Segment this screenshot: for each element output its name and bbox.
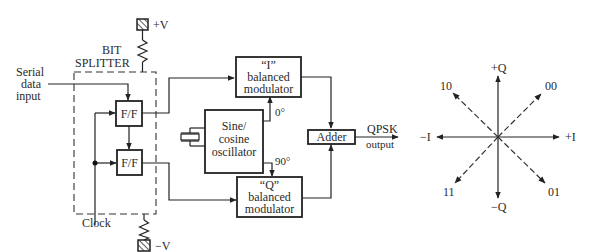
symbol-11-vector — [455, 137, 498, 183]
svg-text:F/F: F/F — [121, 107, 138, 121]
plus-q-label: +Q — [491, 61, 507, 75]
minus-q-label: −Q — [491, 200, 507, 214]
positive-supply: +V — [137, 18, 169, 72]
qpsk-diagram: +V BIT SPLITTER F/F F/F Serial data inpu… — [0, 0, 593, 252]
bit-splitter-label-1: BIT — [102, 43, 122, 57]
minus-i-label: −I — [420, 130, 431, 144]
symbol-10-label: 10 — [440, 79, 452, 93]
resistor-icon — [138, 40, 147, 62]
svg-text:modulator: modulator — [245, 202, 294, 216]
symbol-10-vector — [453, 93, 498, 137]
negative-supply: −V — [138, 214, 171, 252]
svg-text:oscillator: oscillator — [212, 145, 257, 159]
junction-dot — [93, 161, 98, 166]
sine-cosine-oscillator: Sine/ cosine oscillator — [181, 110, 263, 173]
crystal-icon — [181, 128, 205, 146]
svg-text:F/F: F/F — [121, 156, 138, 170]
supply-terminal-icon — [137, 19, 148, 30]
svg-text:output: output — [366, 138, 394, 150]
resistor-icon — [140, 220, 149, 240]
phasor-diagram: +Q −Q +I −I 00 10 11 01 — [420, 61, 576, 214]
symbol-00-label: 00 — [545, 79, 557, 93]
supply-terminal-icon — [138, 240, 150, 251]
svg-text:modulator: modulator — [244, 82, 293, 96]
phase-0-label: 0° — [275, 106, 285, 118]
clock-label: Clock — [82, 216, 111, 230]
i-balanced-modulator: “I” balanced modulator — [236, 57, 301, 97]
svg-text:input: input — [16, 89, 41, 103]
bit-splitter-label-2: SPLITTER — [75, 56, 130, 70]
symbol-11-label: 11 — [443, 185, 455, 199]
adder: Adder — [308, 130, 355, 144]
bit-splitter-boundary — [74, 72, 156, 214]
svg-text:cosine: cosine — [219, 132, 250, 146]
negative-supply-label: −V — [155, 239, 171, 252]
qpsk-output: QPSK output — [366, 122, 398, 150]
svg-text:Adder: Adder — [317, 130, 347, 144]
positive-supply-label: +V — [153, 18, 169, 32]
clock-input: Clock — [82, 113, 116, 230]
bit-splitter: BIT SPLITTER F/F F/F — [74, 43, 156, 214]
symbol-01-label: 01 — [548, 185, 560, 199]
symbol-00-vector — [498, 94, 541, 137]
svg-text:Sine/: Sine/ — [222, 119, 247, 133]
symbol-01-vector — [498, 137, 545, 183]
svg-text:QPSK: QPSK — [367, 122, 398, 136]
phase-90-label: 90° — [275, 155, 290, 167]
plus-i-label: +I — [565, 130, 576, 144]
q-balanced-modulator: “Q” balanced modulator — [237, 177, 302, 217]
serial-data-input: Serial data input — [16, 65, 128, 103]
